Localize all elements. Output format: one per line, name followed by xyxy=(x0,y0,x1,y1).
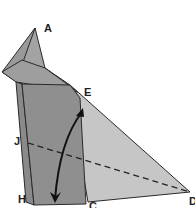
label-h: H xyxy=(18,193,26,205)
label-e: E xyxy=(84,86,91,98)
label-j: J xyxy=(14,135,20,147)
origami-diagram: A E J H C D xyxy=(0,0,195,208)
label-d: D xyxy=(189,195,195,207)
label-c: C xyxy=(89,200,97,208)
label-a: A xyxy=(44,22,52,34)
light-paper-region xyxy=(70,85,190,202)
